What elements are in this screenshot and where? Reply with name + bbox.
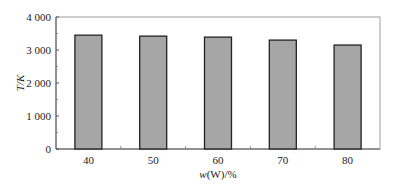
bar-70 <box>269 40 296 149</box>
y-tick-label: 4 000 <box>26 11 51 23</box>
y-tick-label: 2 000 <box>26 77 51 89</box>
bar-80 <box>334 45 361 149</box>
bars <box>75 35 361 149</box>
bar-60 <box>205 37 232 149</box>
x-tick-label: 40 <box>83 154 95 166</box>
y-tick-label: 1 000 <box>26 110 51 122</box>
bar-chart: 01 0002 0003 0004 0004050607080 T/K w(W)… <box>0 0 401 185</box>
x-tick-label: 70 <box>277 154 289 166</box>
y-axis-title: T/K <box>14 74 26 91</box>
x-tick-label: 60 <box>213 154 225 166</box>
x-axis-title-rest: (W)/% <box>207 168 237 181</box>
x-tick-label: 50 <box>148 154 160 166</box>
y-tick-label: 3 000 <box>26 44 51 56</box>
x-axis-title: w(W)/% <box>199 168 236 181</box>
bar-40 <box>75 35 102 149</box>
y-tick-label: 0 <box>46 143 52 155</box>
bar-50 <box>140 36 167 149</box>
x-tick-label: 80 <box>342 154 354 166</box>
